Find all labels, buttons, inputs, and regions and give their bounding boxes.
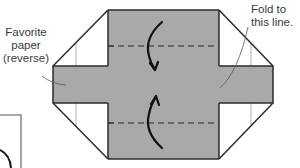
label-line: Fold to: [251, 3, 293, 16]
fold-to-line-label: Fold to this line.: [251, 3, 293, 29]
origami-diagram: Favorite paper (reverse) Fold to this li…: [0, 0, 300, 168]
label-line: (reverse): [0, 52, 52, 65]
next-step-panel: [0, 115, 21, 168]
favorite-paper-label: Favorite paper (reverse): [0, 26, 52, 65]
label-line: paper: [0, 39, 52, 52]
label-line: Favorite: [0, 26, 52, 39]
label-line: this line.: [251, 16, 293, 29]
